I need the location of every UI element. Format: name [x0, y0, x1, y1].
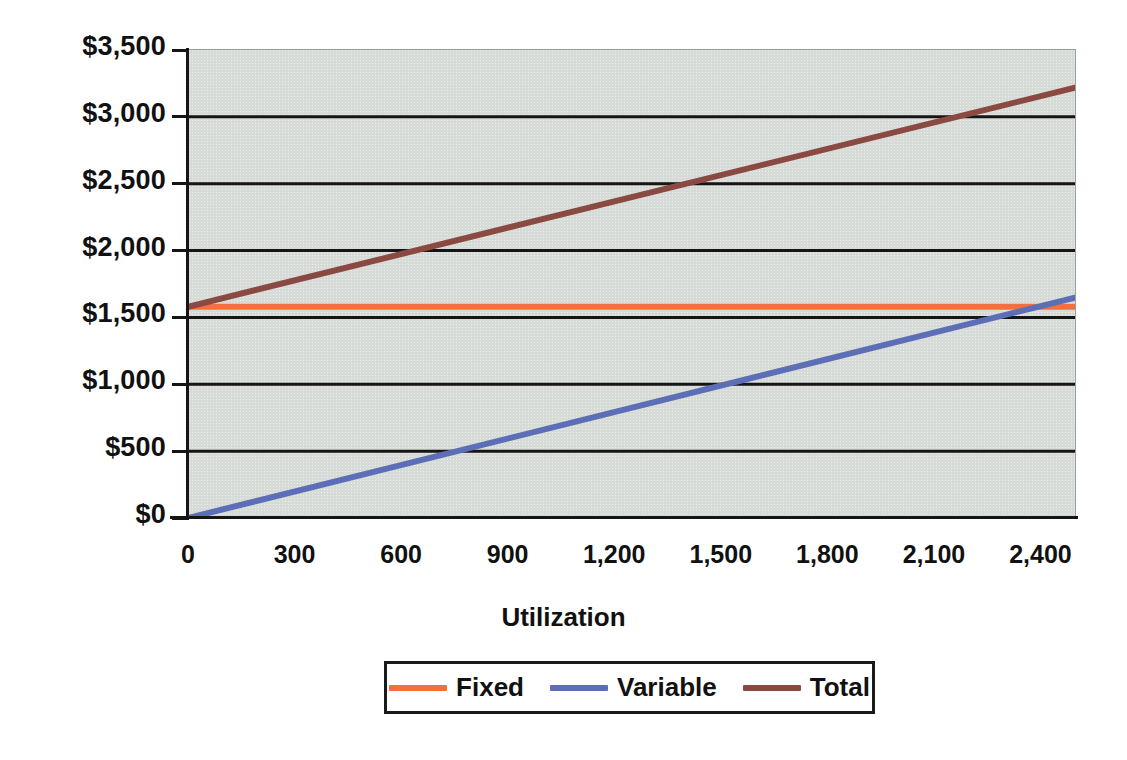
y-axis-tick [172, 182, 188, 185]
plot-area [188, 50, 1076, 518]
series-line-total [188, 87, 1076, 306]
series-lines [188, 87, 1076, 518]
y-axis-tick-label: $500 [16, 432, 166, 463]
y-axis-tick [172, 450, 188, 453]
legend-label: Fixed [456, 672, 524, 703]
gridlines [188, 117, 1076, 451]
x-axis-tick-label: 1,500 [690, 540, 753, 569]
y-axis-tick [172, 249, 188, 252]
legend-item-fixed[interactable]: Fixed [389, 672, 524, 703]
y-axis-tick [172, 517, 188, 520]
x-axis-tick-label: 300 [274, 540, 316, 569]
x-axis-tick-label: 0 [181, 540, 195, 569]
y-axis-tick-label: $1,000 [16, 365, 166, 396]
legend-item-variable[interactable]: Variable [550, 672, 717, 703]
y-axis-tick-label: $1,500 [16, 298, 166, 329]
legend-swatch-icon [550, 685, 608, 691]
series-line-variable [188, 297, 1076, 518]
y-axis-tick-label: $2,500 [16, 165, 166, 196]
legend-label: Total [810, 672, 870, 703]
cost-behavior-line-chart: $0$500$1,000$1,500$2,000$2,500$3,000$3,5… [0, 0, 1127, 760]
y-axis-tick [172, 316, 188, 319]
legend-swatch-icon [743, 685, 801, 691]
legend-item-total[interactable]: Total [743, 672, 870, 703]
y-axis-tick [172, 49, 188, 52]
x-axis-tick-label: 600 [380, 540, 422, 569]
legend-label: Variable [617, 672, 717, 703]
legend-swatch-icon [389, 685, 447, 691]
y-axis-tick [172, 115, 188, 118]
y-axis-tick [172, 383, 188, 386]
y-axis-tick-label: $3,000 [16, 98, 166, 129]
y-axis-tick-label: $0 [16, 499, 166, 530]
x-axis-tick-label: 2,400 [1009, 540, 1072, 569]
x-axis-tick-label: 1,200 [583, 540, 646, 569]
x-axis-tick-label: 900 [487, 540, 529, 569]
plot-canvas [188, 50, 1076, 518]
plot-right-border [1075, 50, 1076, 518]
chart-legend: FixedVariableTotal [384, 661, 875, 714]
x-axis-tick-label: 2,100 [903, 540, 966, 569]
x-axis-title: Utilization [0, 602, 1127, 633]
y-axis-tick-label: $3,500 [16, 31, 166, 62]
plot-top-border [188, 49, 1076, 50]
y-axis-tick-label: $2,000 [16, 232, 166, 263]
x-axis-tick-label: 1,800 [796, 540, 859, 569]
x-axis-line [170, 516, 1078, 519]
